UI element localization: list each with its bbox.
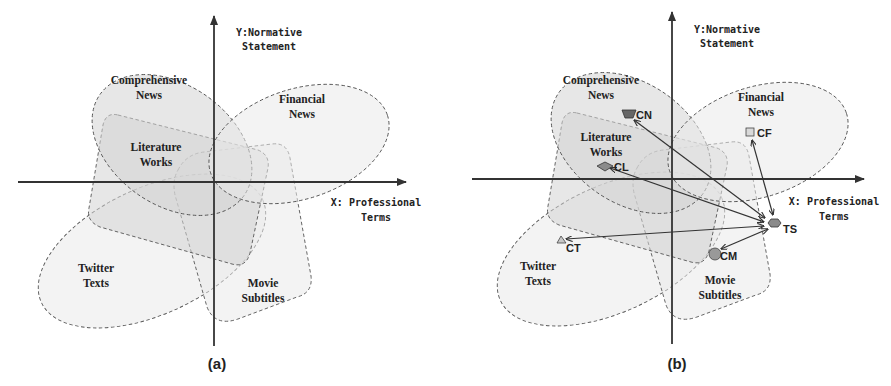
figure-canvas: Y:NormativeStatement X: ProfessionalTerm… (0, 0, 891, 386)
caption-a: (a) (208, 355, 226, 372)
y-axis-label: Y:NormativeStatement (694, 24, 760, 49)
marker-cm: CM (709, 248, 737, 262)
marker-label-cn: CN (636, 109, 652, 121)
marker-label-cl: CL (614, 161, 629, 173)
marker-label-ct: CT (566, 242, 581, 254)
hexagon-icon (768, 219, 781, 227)
y-axis-label: Y:NormativeStatement (236, 27, 302, 52)
marker-label-cf: CF (757, 127, 772, 139)
x-axis-label: X: ProfessionalTerms (789, 196, 879, 222)
marker-label-ts: TS (783, 223, 797, 235)
marker-ts: TS (768, 219, 797, 235)
panel-b: Y:NormativeStatement X: ProfessionalTerm… (472, 12, 879, 372)
marker-label-cm: CM (720, 250, 737, 262)
x-axis-label: X: ProfessionalTerms (331, 197, 421, 223)
square-icon (746, 128, 754, 136)
panel-a: Y:NormativeStatement X: ProfessionalTerm… (15, 16, 421, 372)
caption-b: (b) (667, 355, 686, 372)
